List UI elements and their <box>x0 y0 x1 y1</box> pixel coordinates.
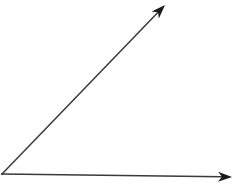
angle-vertex <box>1 173 3 175</box>
angle-diagram <box>0 0 238 188</box>
upper-ray-line <box>2 12 158 174</box>
horizontal-ray-line <box>2 174 222 177</box>
angle-rays <box>1 5 232 182</box>
